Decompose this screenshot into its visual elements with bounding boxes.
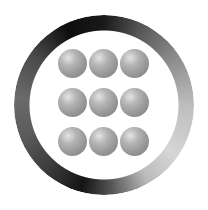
sphere-dot-icon [89,88,118,117]
app-grid-icon[interactable] [0,0,208,210]
sphere-dot-icon [58,127,87,156]
sphere-dot-icon [89,49,118,78]
sphere-dot-icon [120,49,149,78]
sphere-dot-icon [120,88,149,117]
sphere-dot-icon [89,127,118,156]
sphere-dot-icon [58,88,87,117]
dot-grid [58,49,150,157]
sphere-dot-icon [120,127,149,156]
sphere-dot-icon [58,49,87,78]
